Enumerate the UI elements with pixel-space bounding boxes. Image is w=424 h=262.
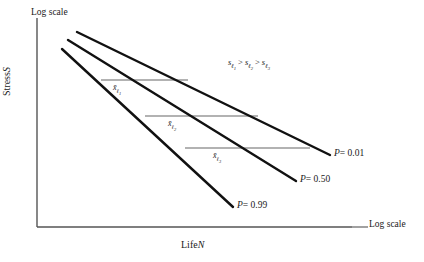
y-axis-title-variable: S: [1, 67, 12, 72]
curve-label-p-0-01: P= 0.01: [334, 149, 364, 159]
x-axis-title-text: Life: [181, 239, 198, 250]
ineq-operator-2: >: [253, 57, 262, 67]
psn-curves-group: [62, 32, 330, 207]
curve-line-p-0-99: [62, 49, 233, 207]
y-axis-title: StressS: [2, 26, 12, 96]
curve-label-p-0-99: P= 0.99: [237, 201, 267, 211]
mean-life-label-2: x̄ℓ2: [168, 120, 176, 132]
mean-subscript-2: ℓ2: [172, 124, 177, 130]
mean-symbol-3: x̄: [213, 151, 217, 160]
ineq-operator-1: >: [236, 57, 245, 67]
mean-sub-index-3: 3: [219, 159, 221, 164]
mean-symbol-2: x̄: [168, 119, 172, 128]
x-axis-title: LifeN: [181, 240, 204, 250]
mean-sub-index-2: 2: [174, 127, 176, 132]
mean-symbol-1: x̄: [113, 83, 117, 92]
x-axis-title-variable: N: [198, 239, 205, 250]
sn-curve-chart: Log scale Log scale StressS LifeN P= 0.0…: [0, 0, 424, 262]
curve-label-p-0-50: P= 0.50: [300, 175, 330, 185]
x-axis-scale-label: Log scale: [369, 220, 406, 230]
chart-plot-area: [0, 0, 424, 262]
curve-label-p-value-3: = 0.99: [243, 200, 267, 210]
mean-life-label-1: x̄ℓ1: [113, 84, 121, 96]
curve-label-p-value-1: = 0.01: [340, 148, 364, 158]
curve-label-p-value-2: = 0.50: [306, 174, 330, 184]
ineq-sub-3: ℓ3: [265, 63, 270, 69]
stress-level-inequality-annotation: sℓ1>sℓ2>sℓ3: [228, 58, 270, 71]
y-axis-title-text: Stress: [1, 72, 12, 96]
mean-subscript-1: ℓ1: [117, 88, 122, 94]
y-axis-scale-label: Log scale: [31, 8, 68, 18]
ineq-sub-index-3: 3: [268, 66, 270, 71]
mean-sub-index-1: 1: [119, 91, 121, 96]
mean-subscript-3: ℓ3: [217, 156, 222, 162]
mean-life-label-3: x̄ℓ3: [213, 152, 221, 164]
